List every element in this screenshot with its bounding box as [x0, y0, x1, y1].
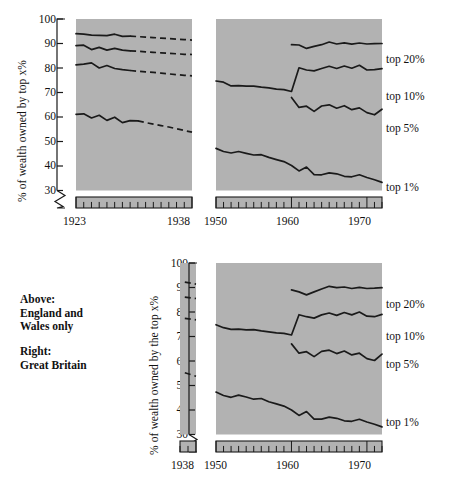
chart-canvas [0, 0, 456, 486]
chart-bottom-panel-1950-1972-background [216, 263, 382, 435]
figure-root: % of wealth owned by top x% 100 90 80 70… [0, 0, 456, 486]
chart-top-y-axis [57, 19, 65, 191]
chart-top-panel-1923-1938-xaxis-bar [76, 197, 192, 208]
chart-bottom-panel-1938-stub-background [180, 263, 196, 435]
chart-top-panel-1923-1938-background [76, 19, 192, 191]
chart-top-axis-break [55, 191, 65, 209]
